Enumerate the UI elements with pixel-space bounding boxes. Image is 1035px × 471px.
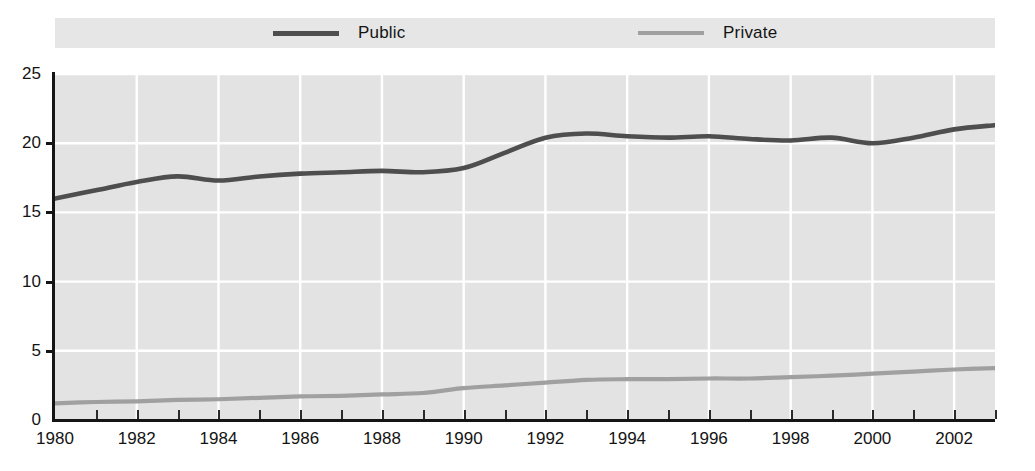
x-axis-tick-label: 1996 (679, 430, 739, 447)
x-axis-tick-label: 2000 (842, 430, 902, 447)
x-axis-tick (627, 410, 629, 419)
chart-figure: Public Private 0510152025 19801982198419… (0, 0, 1035, 471)
x-axis-tick-label: 1984 (188, 430, 248, 447)
x-axis-tick (832, 410, 834, 419)
legend-label-public: Public (358, 24, 406, 41)
x-axis-line (52, 419, 995, 422)
x-axis-tick (668, 410, 670, 419)
x-axis-tick (178, 410, 180, 419)
y-axis-tick-label: 15 (0, 203, 41, 220)
series-line-private (55, 368, 995, 403)
gridlines (55, 74, 995, 420)
x-axis-tick (137, 410, 139, 419)
x-axis-tick (791, 410, 793, 419)
x-axis-tick (341, 410, 343, 419)
x-axis-tick (954, 410, 956, 419)
x-axis-tick-label: 1988 (352, 430, 412, 447)
plot-area (55, 74, 995, 420)
legend-item-public[interactable]: Public (273, 18, 406, 48)
x-axis-tick-label: 1986 (270, 430, 330, 447)
x-axis-tick (709, 410, 711, 419)
series-line-public (55, 125, 995, 198)
data-series-group (55, 125, 995, 403)
x-axis-tick (505, 410, 507, 419)
x-axis-tick (300, 410, 302, 419)
y-axis-tick (46, 350, 55, 353)
x-axis-tick (545, 410, 547, 419)
x-axis-tick (382, 410, 384, 419)
x-axis-tick-label: 1994 (597, 430, 657, 447)
y-axis-tick-label: 0 (0, 411, 41, 428)
y-axis-tick (46, 211, 55, 214)
chart-legend: Public Private (55, 18, 995, 48)
y-axis-tick-label: 25 (0, 65, 41, 82)
x-axis-tick (872, 410, 874, 419)
x-axis-tick (259, 410, 261, 419)
legend-swatch-private (638, 31, 704, 35)
x-axis-tick (218, 410, 220, 419)
y-axis-tick-label: 5 (0, 342, 41, 359)
x-axis-tick (750, 410, 752, 419)
x-axis-tick-label: 2002 (924, 430, 984, 447)
legend-item-private[interactable]: Private (638, 18, 777, 48)
y-axis-line (52, 72, 55, 422)
x-axis-tick (464, 410, 466, 419)
x-axis-tick-label: 1992 (515, 430, 575, 447)
x-axis-tick-label: 1998 (761, 430, 821, 447)
plot-canvas (55, 74, 995, 420)
x-axis-tick-label: 1982 (107, 430, 167, 447)
x-axis-tick-label: 1980 (25, 430, 85, 447)
x-axis-tick (913, 410, 915, 419)
legend-swatch-public (273, 31, 339, 36)
y-axis-tick (46, 281, 55, 284)
legend-label-private: Private (723, 24, 777, 41)
x-axis-tick (586, 410, 588, 419)
x-axis-tick (96, 410, 98, 419)
x-axis-tick (995, 410, 997, 419)
y-axis-tick-label: 10 (0, 273, 41, 290)
y-axis-tick-label: 20 (0, 134, 41, 151)
x-axis-tick (423, 410, 425, 419)
y-axis-tick (46, 142, 55, 145)
x-axis-tick-label: 1990 (434, 430, 494, 447)
